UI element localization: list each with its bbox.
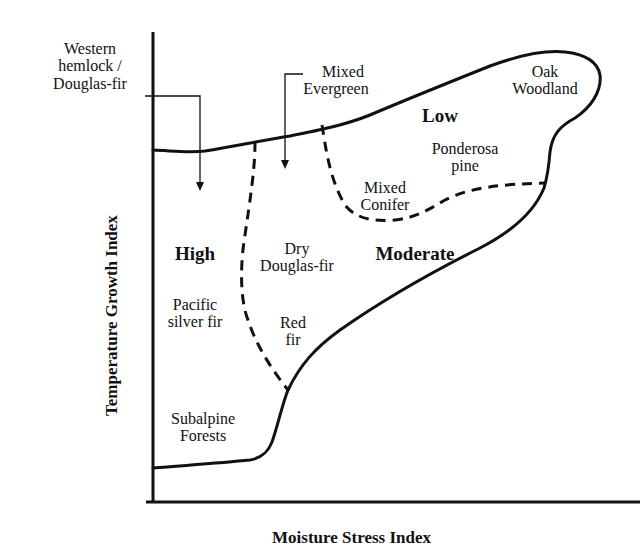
label-line: hemlock / xyxy=(30,57,150,74)
label-line: fir xyxy=(268,331,318,348)
zone-high: High xyxy=(160,244,230,265)
zone-moderate: Moderate xyxy=(355,244,475,265)
label-line: Red xyxy=(268,314,318,331)
label-line: Western xyxy=(30,40,150,57)
label-oak-woodland: Oak Woodland xyxy=(490,63,600,98)
label-western-hemlock: Western hemlock / Douglas-fir xyxy=(30,40,150,92)
label-mixed-evergreen: Mixed Evergreen xyxy=(290,63,382,98)
label-line: Conifer xyxy=(345,196,425,213)
label-line: Woodland xyxy=(490,80,600,97)
label-line: Douglas-fir xyxy=(242,257,352,274)
label-dry-douglas-fir: Dry Douglas-fir xyxy=(242,240,352,275)
label-line: silver fir xyxy=(152,313,238,330)
label-line: Forests xyxy=(158,427,248,444)
arrow-head-icon xyxy=(196,182,204,191)
y-axis-title: Temperature Growth Index xyxy=(102,215,122,416)
label-pacific-silver-fir: Pacific silver fir xyxy=(152,296,238,331)
label-line: Pacific xyxy=(152,296,238,313)
x-axis-title: Moisture Stress Index xyxy=(272,528,431,548)
label-line: Mixed xyxy=(290,63,382,80)
label-line: Subalpine xyxy=(158,410,248,427)
label-line: Ponderosa xyxy=(410,140,520,157)
label-line: Mixed xyxy=(345,179,425,196)
label-line: Douglas-fir xyxy=(30,75,150,92)
label-line: Oak xyxy=(490,63,600,80)
label-line: Dry xyxy=(242,240,352,257)
label-line: Evergreen xyxy=(290,80,382,97)
label-ponderosa-pine: Ponderosa pine xyxy=(410,140,520,175)
zone-low: Low xyxy=(410,106,470,127)
arrow-head-icon xyxy=(281,160,289,169)
label-line: pine xyxy=(410,157,520,174)
label-mixed-conifer: Mixed Conifer xyxy=(345,179,425,214)
label-red-fir: Red fir xyxy=(268,314,318,349)
label-subalpine-forests: Subalpine Forests xyxy=(158,410,248,445)
